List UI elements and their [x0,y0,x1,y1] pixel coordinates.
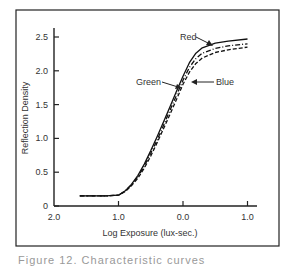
label-red: Red [180,32,213,46]
svg-text:1.0: 1.0 [241,212,254,222]
y-axis-title: Reflection Density [20,81,30,154]
svg-text:0.0: 0.0 [177,212,190,222]
svg-text:1.0: 1.0 [112,212,125,222]
svg-text:2.0: 2.0 [48,212,61,222]
svg-text:1.0: 1.0 [35,133,48,143]
svg-text:Green: Green [136,77,161,87]
label-green: Green [136,77,182,89]
svg-text:2.5: 2.5 [35,32,48,42]
figure-caption: Figure 12. Characteristic curves [18,254,205,266]
svg-text:0.5: 0.5 [35,167,48,177]
svg-text:Red: Red [180,32,197,42]
svg-text:Blue: Blue [216,77,234,87]
x-ticks: 2.01.00.01.0 [48,201,254,222]
svg-text:2.0: 2.0 [35,66,48,76]
curves [80,39,248,196]
svg-text:1.5: 1.5 [35,100,48,110]
chart-frame [16,10,279,246]
label-blue: Blue [191,77,234,87]
y-ticks: 00.51.01.52.02.5 [35,32,59,211]
curve-green [80,44,248,196]
x-axis-title: Log Exposure (lux-sec.) [102,228,197,238]
svg-text:0: 0 [43,201,48,211]
curve-red [80,39,248,196]
